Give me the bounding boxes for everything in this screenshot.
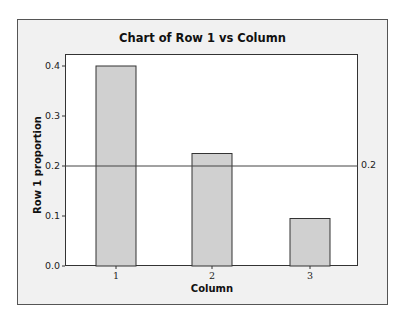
- y-tick-label: 0.4: [34, 60, 60, 71]
- chart-graphics: [0, 0, 405, 320]
- y-tick-label: 0.0: [34, 260, 60, 271]
- x-axis-label: Column: [191, 283, 233, 294]
- bar-3: [290, 219, 330, 267]
- y-tick-label: 0.1: [34, 210, 60, 221]
- x-tick-label: 2: [209, 270, 215, 281]
- y-tick-label: 0.2: [34, 160, 60, 171]
- x-tick-label: 3: [307, 270, 313, 281]
- y-axis-ticks: [62, 66, 65, 266]
- x-tick-label: 1: [113, 270, 119, 281]
- y-tick-label: 0.3: [34, 110, 60, 121]
- reference-line-label: 0.2: [361, 159, 376, 170]
- bar-2: [192, 154, 232, 267]
